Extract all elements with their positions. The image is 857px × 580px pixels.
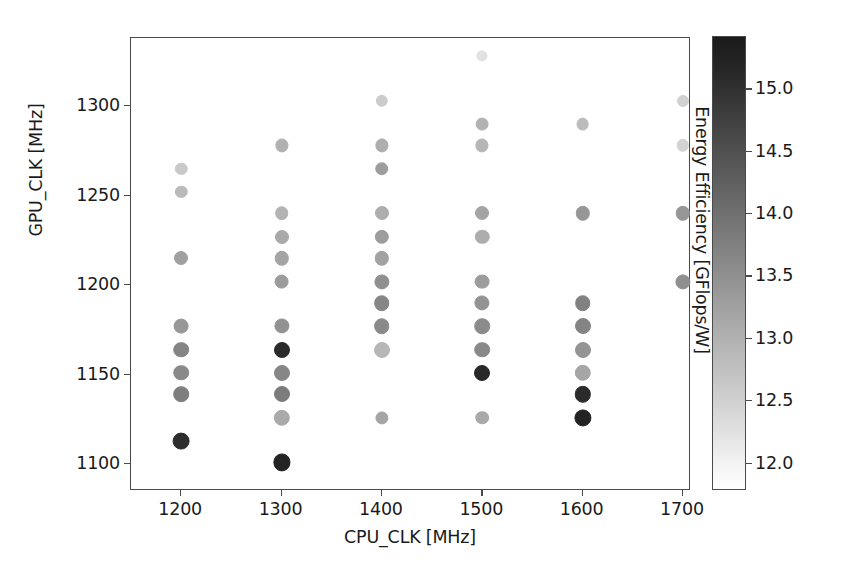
scatter-point	[274, 342, 290, 358]
scatter-point	[275, 230, 289, 244]
y-tick-mark	[124, 284, 130, 285]
scatter-point	[274, 365, 290, 381]
scatter-point	[375, 139, 388, 152]
x-tick-label: 1200	[158, 499, 202, 519]
scatter-point	[275, 139, 288, 152]
y-tick-mark	[124, 374, 130, 375]
colorbar-gradient	[712, 36, 746, 490]
scatter-point	[374, 342, 390, 358]
scatter-point	[275, 207, 289, 221]
scatter-point	[375, 206, 389, 220]
y-tick-mark	[124, 195, 130, 196]
y-tick-mark	[124, 463, 130, 464]
scatter-point	[575, 318, 591, 334]
scatter-point	[576, 118, 589, 131]
scatter-point	[476, 139, 489, 152]
scatter-point	[274, 251, 288, 265]
colorbar-tick-label: 14.0	[755, 203, 793, 223]
scatter-point	[676, 206, 690, 220]
scatter-point	[173, 365, 189, 381]
colorbar-tick-mark	[746, 338, 752, 339]
scatter-point	[474, 365, 490, 381]
x-tick-label: 1600	[560, 499, 604, 519]
scatter-point	[677, 139, 689, 151]
y-tick-mark	[124, 105, 130, 106]
x-tick-label: 1400	[359, 499, 403, 519]
scatter-point	[273, 454, 290, 471]
scatter-point	[374, 318, 390, 334]
scatter-point	[475, 295, 490, 310]
scatter-point	[174, 251, 188, 265]
x-tick-mark	[682, 490, 683, 496]
x-tick-label: 1500	[459, 499, 503, 519]
scatter-point	[274, 319, 289, 334]
scatter-point	[574, 386, 590, 402]
colorbar-tick-mark	[746, 88, 752, 89]
scatter-point	[575, 206, 589, 220]
scatter-point	[374, 295, 390, 311]
colorbar-tick-mark	[746, 213, 752, 214]
colorbar-tick-label: 13.0	[755, 328, 793, 348]
scatter-point	[175, 163, 187, 175]
scatter-point	[474, 318, 490, 334]
scatter-point	[375, 411, 388, 424]
y-tick-label: 1150	[76, 364, 120, 384]
colorbar-tick-mark	[746, 400, 752, 401]
scatter-point	[376, 94, 388, 106]
colorbar	[712, 36, 746, 490]
colorbar-tick-label: 13.5	[755, 265, 793, 285]
scatter-point	[574, 409, 591, 426]
scatter-point	[476, 118, 489, 131]
scatter-point	[173, 432, 190, 449]
colorbar-tick-mark	[746, 463, 752, 464]
y-tick-label: 1300	[76, 95, 120, 115]
scatter-point	[274, 274, 289, 289]
scatter-point	[675, 274, 690, 289]
y-tick-label: 1200	[76, 274, 120, 294]
scatter-plot-figure: 120013001400150016001700 110011501200125…	[0, 0, 857, 580]
y-tick-label: 1100	[76, 453, 120, 473]
scatter-point	[173, 387, 189, 403]
colorbar-tick-label: 12.5	[755, 390, 793, 410]
colorbar-label: Energy Efficiency [GFlops/W]	[692, 70, 712, 390]
colorbar-tick-label: 14.5	[755, 141, 793, 161]
scatter-point	[575, 295, 591, 311]
scatter-point	[475, 206, 489, 220]
scatter-point	[175, 186, 187, 198]
scatter-point	[173, 342, 189, 358]
x-tick-mark	[481, 490, 482, 496]
scatter-point	[475, 274, 490, 289]
scatter-point	[677, 95, 689, 107]
x-tick-mark	[281, 490, 282, 496]
x-tick-mark	[180, 490, 181, 496]
x-tick-mark	[381, 490, 382, 496]
scatter-point	[475, 230, 489, 244]
x-tick-label: 1300	[259, 499, 303, 519]
scatter-point	[273, 409, 289, 425]
scatter-point	[375, 230, 389, 244]
y-axis-label: GPU_CLK [MHz]	[26, 40, 46, 300]
y-tick-label: 1250	[76, 185, 120, 205]
scatter-point	[477, 50, 488, 61]
scatter-points-layer	[131, 38, 689, 489]
scatter-point	[174, 319, 189, 334]
colorbar-tick-label: 12.0	[755, 453, 793, 473]
scatter-point	[575, 342, 591, 358]
scatter-point	[574, 365, 590, 381]
scatter-point	[474, 342, 490, 358]
x-tick-label: 1700	[660, 499, 704, 519]
colorbar-tick-mark	[746, 151, 752, 152]
scatter-point	[374, 274, 389, 289]
colorbar-tick-label: 15.0	[755, 78, 793, 98]
plot-axes-area	[130, 37, 690, 490]
scatter-point	[375, 162, 389, 176]
x-axis-label: CPU_CLK [MHz]	[130, 527, 690, 547]
scatter-point	[274, 386, 290, 402]
scatter-point	[375, 251, 389, 265]
scatter-point	[475, 411, 489, 425]
colorbar-tick-mark	[746, 275, 752, 276]
x-tick-mark	[582, 490, 583, 496]
